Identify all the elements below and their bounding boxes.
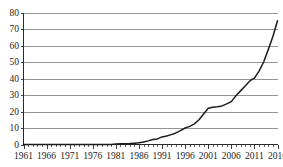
- y-tick-label: 70: [10, 24, 20, 34]
- y-tick-label: 60: [10, 41, 20, 51]
- x-tick-label: 2006: [222, 151, 241, 161]
- y-tick-label: 10: [10, 123, 20, 133]
- x-tick-label: 1971: [60, 151, 79, 161]
- y-tick-label: 40: [10, 74, 20, 84]
- y-tick-label: 20: [10, 107, 20, 117]
- x-tick-label: 2011: [245, 151, 264, 161]
- x-tick-label: 1976: [83, 151, 102, 161]
- chart-canvas: 01020304050607080 1961196619711976198119…: [0, 0, 283, 167]
- data-series-line: [24, 21, 278, 145]
- gridlines-group: [24, 14, 278, 129]
- x-tick-label: 2016: [268, 151, 283, 161]
- x-tick-label: 2001: [199, 151, 218, 161]
- y-tick-label: 30: [10, 90, 20, 100]
- y-tick-label: 80: [10, 8, 20, 18]
- x-axis-labels-group: 1961196619711976198119861991199620012006…: [14, 151, 283, 161]
- line-chart: 01020304050607080 1961196619711976198119…: [0, 0, 283, 167]
- x-tick-label: 1991: [153, 151, 172, 161]
- x-tick-label: 1961: [14, 151, 33, 161]
- x-tick-label: 1981: [106, 151, 125, 161]
- x-tick-label: 1986: [129, 151, 148, 161]
- y-tick-label: 50: [10, 57, 20, 67]
- y-tick-label: 0: [14, 140, 19, 150]
- y-axis-labels-group: 01020304050607080: [10, 8, 20, 150]
- x-tick-label: 1966: [37, 151, 56, 161]
- x-tick-label: 1996: [176, 151, 195, 161]
